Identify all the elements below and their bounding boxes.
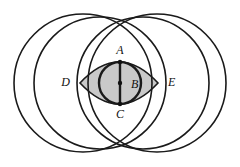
point-c xyxy=(118,102,122,106)
label-c: C xyxy=(116,107,125,121)
label-e: E xyxy=(167,75,176,89)
geometry-figure: ABCDE xyxy=(0,0,240,167)
figure-canvas: ABCDE xyxy=(0,0,240,167)
point-a xyxy=(118,60,122,64)
label-b: B xyxy=(131,77,139,91)
label-d: D xyxy=(60,75,70,89)
label-a: A xyxy=(115,43,124,57)
point-b xyxy=(118,81,122,85)
